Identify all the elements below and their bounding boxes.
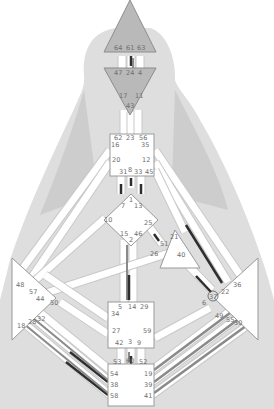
gate-48: 48 [16,281,24,289]
gate-4: 4 [138,69,142,77]
gate-46: 46 [134,230,142,238]
gate-24: 24 [126,69,134,77]
gate-21: 21 [170,233,178,241]
gate-1: 1 [129,196,133,204]
gate-36: 36 [233,281,241,289]
gate-47: 47 [114,69,122,77]
gate-12: 12 [142,156,150,164]
gate-25: 25 [144,219,152,227]
gate-50: 50 [50,299,58,307]
gate-41: 41 [144,392,152,400]
gate-18: 18 [17,322,25,330]
gate-42: 42 [115,339,123,347]
gate-3: 3 [128,338,132,346]
gate-23: 23 [126,134,134,142]
gate-63: 63 [137,44,145,52]
gate-33: 33 [134,168,142,176]
gate-32: 32 [37,315,45,323]
gate-27: 27 [112,327,120,335]
gate-29: 29 [140,303,148,311]
gate-51: 51 [160,240,168,248]
gate-7: 7 [121,202,125,210]
gate-38: 38 [110,381,118,389]
gate-64: 64 [114,44,122,52]
gate-45: 45 [145,168,153,176]
gate-19: 19 [144,370,152,378]
gate-61: 61 [126,44,134,52]
gate-37: 37 [209,293,217,301]
gate-49: 49 [215,312,223,320]
gate-14: 14 [128,303,136,311]
gate-54: 54 [110,370,118,378]
gate-39: 39 [144,381,152,389]
gate-6: 6 [202,299,206,307]
gate-11: 11 [135,92,143,100]
gate-9: 9 [137,339,141,347]
gate-16: 16 [111,141,119,149]
gate-34: 34 [111,310,119,318]
gate-31: 31 [119,168,127,176]
gate-53: 53 [113,358,121,366]
gate-2: 2 [129,236,133,244]
gate-30: 30 [234,319,242,327]
gate-35: 35 [141,141,149,149]
gate-40: 40 [177,251,185,259]
gate-22: 22 [221,288,229,296]
gate-17: 17 [119,92,127,100]
gate-15: 15 [120,230,128,238]
gate-13: 13 [134,202,142,210]
gate-60: 60 [126,357,134,365]
gate-8: 8 [128,166,132,174]
bodygraph: 64 61 63 47 24 4 17 11 43 62 23 56 16 35… [0,0,274,409]
gate-44: 44 [36,295,44,303]
gate-20: 20 [112,156,120,164]
gate-52: 52 [139,358,147,366]
gate-43: 43 [126,102,134,110]
gate-10: 10 [104,216,112,224]
gate-58: 58 [110,392,118,400]
gate-59: 59 [143,327,151,335]
gate-26: 26 [150,250,158,258]
gate-28: 28 [28,318,36,326]
